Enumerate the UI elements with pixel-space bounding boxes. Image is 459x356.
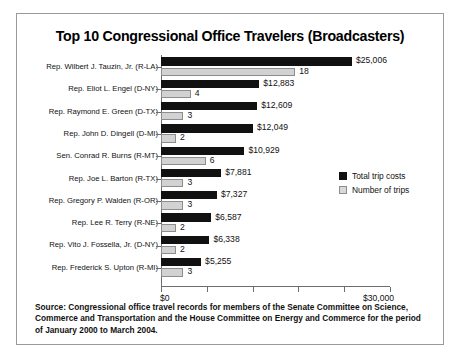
bar-total-trip-costs [161,213,211,221]
y-axis-tick [156,156,161,157]
x-axis-line [161,286,390,287]
bar-value-label-cost: $25,006 [356,55,387,65]
bar-number-of-trips [161,246,176,254]
source-note: Source: Congressional office travel reco… [35,302,427,336]
legend-item-total-trip-costs: Total trip costs [339,171,409,181]
bar-value-label-trips: 3 [187,266,192,276]
category-label: Rep. Raymond E. Green (D-TX) [0,101,158,123]
bar-row: Rep. Raymond E. Green (D-TX)$12,6093 [17,101,445,123]
bar-group: $25,00618 [161,56,445,78]
y-axis-tick [156,134,161,135]
bar-value-label-cost: $6,587 [215,212,241,222]
category-label: Rep. John D. Dingell (D-MI) [0,123,158,145]
bar-value-label-trips: 18 [299,66,309,76]
bar-row: Rep. Wilbert J. Tauzin, Jr. (R-LA)$25,00… [17,56,445,78]
bar-row: Rep. Lee R. Terry (R-NE)$6,5872 [17,212,445,234]
x-axis-tick [161,287,162,292]
bar-total-trip-costs [161,80,259,88]
category-label: Rep. Eliot L. Engel (D-NY) [0,78,158,100]
bar-total-trip-costs [161,169,221,177]
bar-number-of-trips [161,90,191,98]
bar-value-label-cost: $12,049 [257,122,288,132]
bar-total-trip-costs [161,124,253,132]
bar-group: $5,2553 [161,257,445,279]
x-axis-tick [298,287,299,292]
bar-total-trip-costs [161,191,217,199]
bar-value-label-cost: $12,609 [261,100,292,110]
y-axis-tick [156,268,161,269]
bar-number-of-trips [161,112,183,120]
legend-swatch-icon-total-trip-costs [339,172,347,180]
y-axis-tick [156,112,161,113]
bar-value-label-trips: 2 [180,132,185,142]
bar-number-of-trips [161,179,183,187]
y-axis-tick [156,67,161,68]
x-axis-tick [253,287,254,292]
bar-value-label-cost: $6,338 [213,234,239,244]
legend-swatch-icon-number-of-trips [339,186,347,194]
bar-total-trip-costs [161,236,209,244]
bar-number-of-trips [161,201,183,209]
bar-value-label-trips: 4 [195,88,200,98]
plot-area: Rep. Wilbert J. Tauzin, Jr. (R-LA)$25,00… [17,55,445,287]
bar-group: $12,6093 [161,101,445,123]
bar-group: $10,9296 [161,145,445,167]
category-label: Rep. Vito J. Fossella, Jr. (D-NY) [0,234,158,256]
bar-value-label-cost: $10,929 [248,145,279,155]
y-axis-tick [156,179,161,180]
bar-number-of-trips [161,68,295,76]
legend-label-number-of-trips: Number of trips [352,185,409,195]
bar-row: Rep. Frederick S. Upton (R-MI)$5,2553 [17,257,445,279]
category-label: Sen. Conrad R. Burns (R-MT) [0,145,158,167]
bar-number-of-trips [161,224,176,232]
y-axis-tick [156,201,161,202]
category-label: Rep. Lee R. Terry (R-NE) [0,212,158,234]
bar-total-trip-costs [161,147,244,155]
bar-number-of-trips [161,268,183,276]
x-axis-tick [390,287,391,292]
bar-value-label-trips: 2 [180,244,185,254]
bar-value-label-trips: 3 [187,177,192,187]
bar-value-label-trips: 2 [180,222,185,232]
bar-value-label-cost: $7,881 [225,167,251,177]
bar-total-trip-costs [161,258,201,266]
bar-value-label-cost: $7,327 [221,189,247,199]
bar-group: $6,3382 [161,234,445,256]
y-axis-tick [156,246,161,247]
bar-group: $12,8834 [161,78,445,100]
bar-value-label-trips: 3 [187,199,192,209]
x-axis-tick [207,287,208,292]
bar-value-label-cost: $5,255 [205,256,231,266]
category-label: Rep. Joe L. Barton (R-TX) [0,168,158,190]
bar-row: Rep. Vito J. Fossella, Jr. (D-NY)$6,3382 [17,234,445,256]
category-label: Rep. Wilbert J. Tauzin, Jr. (R-LA) [0,56,158,78]
bar-group: $12,0492 [161,123,445,145]
bar-value-label-cost: $12,883 [263,78,294,88]
bar-row: Rep. Eliot L. Engel (D-NY)$12,8834 [17,78,445,100]
bar-row: Sen. Conrad R. Burns (R-MT)$10,9296 [17,145,445,167]
chart-title: Top 10 Congressional Office Travelers (B… [17,28,443,44]
bar-total-trip-costs [161,57,352,65]
category-label: Rep. Frederick S. Upton (R-MI) [0,257,158,279]
bar-value-label-trips: 3 [187,110,192,120]
bar-row: Rep. John D. Dingell (D-MI)$12,0492 [17,123,445,145]
bar-group: $6,5872 [161,212,445,234]
chart-frame: Top 10 Congressional Office Travelers (B… [16,13,444,345]
bar-number-of-trips [161,134,176,142]
category-label: Rep. Gregory P. Walden (R-OR) [0,190,158,212]
bar-value-label-trips: 6 [210,155,215,165]
bar-total-trip-costs [161,102,257,110]
y-axis-tick [156,89,161,90]
chart-legend: Total trip costs Number of trips [339,171,409,199]
legend-item-number-of-trips: Number of trips [339,185,409,195]
legend-label-total-trip-costs: Total trip costs [352,171,406,181]
x-axis-tick [344,287,345,292]
bar-number-of-trips [161,157,206,165]
y-axis-tick [156,223,161,224]
